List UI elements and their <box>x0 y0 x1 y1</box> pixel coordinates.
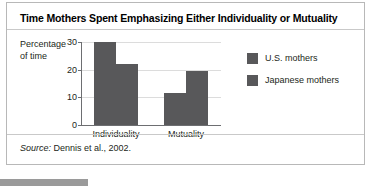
figure-title: Time Mothers Spent Emphasizing Either In… <box>20 12 338 24</box>
source-prefix: Source: <box>20 143 51 153</box>
y-axis-title-line2: of time <box>20 51 82 63</box>
y-tick-label: 20 <box>67 66 77 75</box>
bar-mutuality-japanese <box>186 71 208 125</box>
bar-individuality-japanese <box>116 64 138 125</box>
y-tick-label: 30 <box>67 38 77 47</box>
source-note: Source: Dennis et al., 2002. <box>20 143 131 153</box>
y-tick-label: 0 <box>72 121 77 130</box>
source-citation: Dennis et al., 2002. <box>51 143 131 153</box>
x-axis-line <box>81 125 221 126</box>
bar-mutuality-us <box>164 93 186 125</box>
legend: U.S. mothers Japanese mothers <box>247 47 339 91</box>
legend-label-us: U.S. mothers <box>265 53 318 63</box>
bar-individuality-us <box>94 42 116 125</box>
y-tick-label: 10 <box>67 93 77 102</box>
y-axis-line <box>81 42 82 126</box>
title-divider <box>7 29 364 30</box>
plot-inner: 0102030IndividualityMutuality <box>81 42 221 126</box>
legend-swatch-japanese <box>247 75 258 86</box>
bottom-gray-bar <box>0 179 88 186</box>
legend-item-japanese: Japanese mothers <box>247 69 339 91</box>
legend-item-us: U.S. mothers <box>247 47 339 69</box>
legend-swatch-us <box>247 53 258 64</box>
figure-container: Time Mothers Spent Emphasizing Either In… <box>6 2 365 165</box>
legend-label-japanese: Japanese mothers <box>265 75 339 85</box>
plot-area: 0102030IndividualityMutuality <box>81 42 221 126</box>
source-divider <box>7 134 364 135</box>
